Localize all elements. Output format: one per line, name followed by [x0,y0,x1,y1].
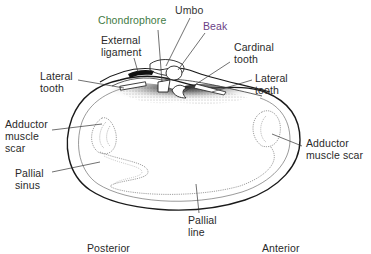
label-pallial-line: Pallial line [188,214,217,238]
leader-external-ligament [134,58,138,72]
shell-diagram: Umbo Chondrophore Beak External ligament… [0,0,371,254]
label-pallial-sinus: Pallial sinus [15,167,44,191]
label-umbo: Umbo [175,4,203,16]
label-adductor-muscle-scar-left: Adductor muscle scar [5,118,48,154]
label-beak: Beak [203,20,227,32]
leader-pallial-sinus [52,162,100,172]
label-anterior: Anterior [262,242,300,254]
label-chondrophore: Chondrophore [98,14,166,26]
label-lateral-tooth-left: Lateral tooth [40,70,73,94]
label-cardinal-tooth: Cardinal tooth [234,41,274,65]
leader-pallial-line [196,184,199,213]
adductor-scar-right-shape [253,111,280,147]
label-external-ligament: External ligament [101,34,142,58]
label-posterior: Posterior [87,242,130,254]
leader-adductor-right [272,134,302,146]
shell-illustration [0,0,371,254]
label-lateral-tooth-right: Lateral tooth [255,72,288,96]
label-adductor-muscle-scar-right: Adductor muscle scar [306,137,363,161]
adductor-scar-left-shape [92,118,117,154]
pallial-line-shape [100,146,274,194]
chondrophore-shape [158,80,170,92]
leader-beak [178,33,205,70]
